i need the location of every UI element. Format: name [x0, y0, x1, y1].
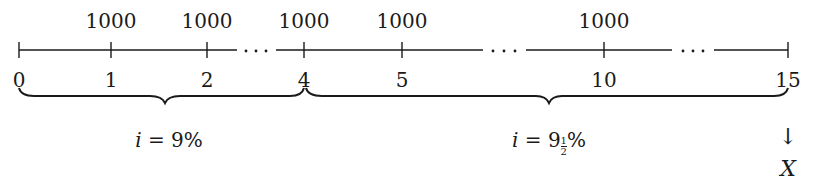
tick-label: 10	[591, 70, 616, 90]
unknown-value-label: X	[780, 158, 796, 180]
rate-label-period-1: i = 9%	[135, 130, 203, 150]
tick-label: 5	[396, 70, 409, 90]
rate-value-whole: = 9	[518, 128, 560, 152]
rate-value: = 9%	[142, 128, 203, 152]
payment-label: 1000	[377, 11, 428, 31]
tick-label: 0	[13, 70, 26, 90]
payment-label: 1000	[182, 11, 233, 31]
tick-label: 2	[201, 70, 214, 90]
rate-label-period-2: i = 912%	[512, 130, 586, 156]
tick-label: 15	[775, 70, 800, 90]
down-arrow-icon: ↓	[779, 126, 797, 148]
tick-label: 1	[105, 70, 118, 90]
payment-label: 1000	[279, 11, 330, 31]
tick-label: 4	[298, 70, 311, 90]
payment-label: 1000	[86, 11, 137, 31]
payment-label: 1000	[579, 11, 630, 31]
rate-percent: %	[567, 128, 586, 152]
